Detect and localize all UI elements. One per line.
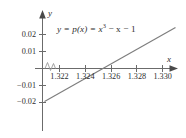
- function-curve: [45, 28, 176, 102]
- plot-canvas: [0, 0, 186, 138]
- y-axis-label: y: [48, 9, 52, 18]
- y-axis-arrow-icon: [39, 10, 46, 19]
- y-tick-label: 0.02: [4, 31, 36, 39]
- x-tick-label: 1.328: [126, 73, 148, 81]
- x-tick-label: 1.322: [49, 73, 71, 81]
- y-tick-label: 0.01: [4, 48, 36, 56]
- x-tick-label: 1.330: [152, 73, 174, 81]
- equation-annotation: y = p(x) = x3 − x − 1: [57, 25, 136, 34]
- y-tick-label: −0.01: [2, 82, 36, 90]
- equation-rhs: − x − 1: [106, 24, 136, 34]
- x-axis-label: x: [167, 55, 171, 64]
- x-axis-arrow-icon: [170, 65, 179, 72]
- y-tick-label: −0.02: [2, 98, 36, 106]
- figure-container: 0.02 0.01 −0.01 −0.02 1.322 1.324 1.326 …: [0, 0, 186, 138]
- x-tick-label: 1.326: [100, 73, 122, 81]
- equation-lhs: y = p(x) = x: [57, 24, 103, 34]
- x-axis-break-icon: [45, 63, 56, 71]
- x-tick-label: 1.324: [74, 73, 96, 81]
